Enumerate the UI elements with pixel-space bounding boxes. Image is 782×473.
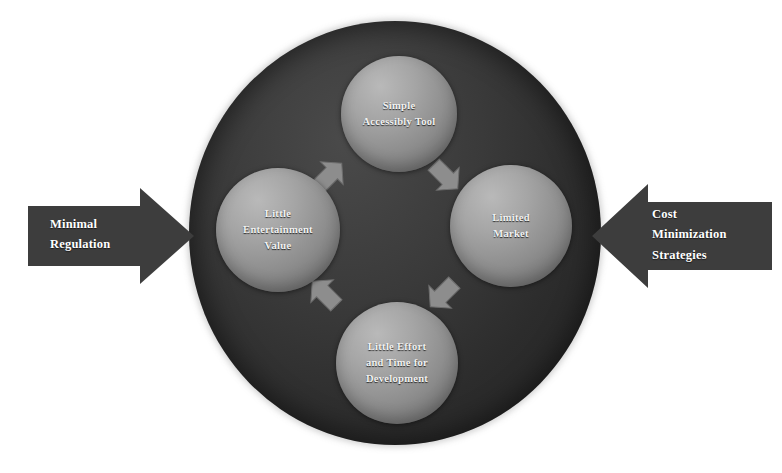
node-simple-accessibly-tool: Simple Accessibly Tool	[341, 56, 457, 172]
diagram-canvas: Simple Accessibly Tool Limited Market Li…	[0, 0, 782, 473]
node-little-effort-and-time-for-development: Little Effort and Time for Development	[336, 302, 458, 424]
side-arrow-label-cost-minimization-strategies: Cost Minimization Strategies	[652, 204, 727, 265]
node-label-simple-accessibly-tool: Simple Accessibly Tool	[353, 98, 444, 131]
node-limited-market: Limited Market	[450, 165, 572, 287]
side-arrow-label-minimal-regulation: Minimal Regulation	[50, 214, 110, 255]
node-label-limited-market: Limited Market	[483, 210, 539, 243]
node-label-little-entertainment-value: Little Entertainment Value	[234, 206, 322, 255]
side-arrow-minimal-regulation: Minimal Regulation	[28, 186, 194, 286]
side-arrow-cost-minimization-strategies: Cost Minimization Strategies	[592, 180, 772, 292]
node-little-entertainment-value: Little Entertainment Value	[216, 168, 340, 292]
node-label-little-effort-and-time-for-development: Little Effort and Time for Development	[357, 339, 437, 388]
